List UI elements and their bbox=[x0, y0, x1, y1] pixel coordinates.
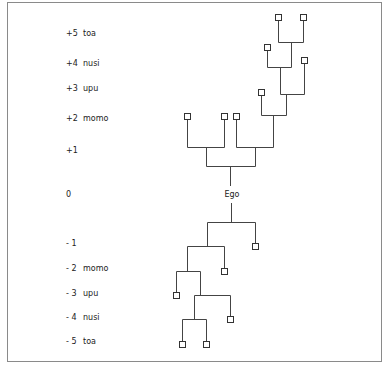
male-kin-square-icon bbox=[259, 90, 265, 96]
male-kin-square-icon bbox=[265, 45, 271, 51]
male-kin-square-icon bbox=[234, 114, 240, 120]
male-kin-square-icon bbox=[276, 15, 282, 21]
descending-lines bbox=[177, 203, 256, 341]
male-kin-square-icon bbox=[185, 114, 191, 120]
male-kin-square-icon bbox=[222, 114, 228, 120]
male-kin-square-icon bbox=[302, 58, 308, 64]
male-kin-square-icon bbox=[180, 342, 186, 348]
male-kin-square-icon bbox=[253, 244, 259, 250]
male-kin-square-icon bbox=[204, 342, 210, 348]
male-kin-square-icon bbox=[301, 15, 307, 21]
kin-nodes bbox=[174, 15, 308, 348]
male-kin-square-icon bbox=[174, 293, 180, 299]
ascending-lines bbox=[188, 20, 305, 186]
kinship-tree bbox=[0, 0, 384, 367]
male-kin-square-icon bbox=[222, 269, 228, 275]
male-kin-square-icon bbox=[228, 317, 234, 323]
